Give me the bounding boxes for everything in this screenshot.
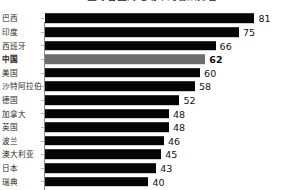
category-label: 西班牙 — [2, 41, 43, 50]
bar-row: 西班牙66 — [0, 39, 290, 53]
bar-row: 日本43 — [0, 161, 290, 175]
bar — [45, 163, 156, 173]
value-label: 62 — [205, 54, 222, 65]
chart-title: 全球各国对电动车的看法排名 — [52, 0, 252, 3]
category-label: 中国 — [2, 55, 43, 64]
axis-tick — [41, 154, 44, 155]
value-label: 58 — [195, 81, 211, 92]
category-label: 瑞典 — [2, 177, 43, 186]
bar — [45, 122, 169, 132]
value-label: 40 — [148, 176, 164, 187]
bar-row: 澳大利亚45 — [0, 148, 290, 162]
axis-tick — [41, 45, 44, 46]
axis-tick — [41, 18, 44, 19]
bar — [45, 41, 216, 51]
category-label: 德国 — [2, 95, 43, 104]
bar-row: 巴西81 — [0, 12, 290, 26]
category-label: 加拿大 — [2, 109, 43, 118]
bar-row: 美国60 — [0, 66, 290, 80]
category-label: 波兰 — [2, 136, 43, 145]
value-label: 46 — [164, 135, 180, 146]
category-label: 美国 — [2, 68, 43, 77]
axis-tick — [41, 32, 44, 33]
value-label: 60 — [200, 67, 216, 78]
bar — [45, 68, 200, 78]
bar-row: 英国48 — [0, 120, 290, 134]
bar — [45, 82, 195, 92]
bar-row: 中国62 — [0, 52, 290, 66]
bar — [45, 27, 239, 37]
axis-tick — [41, 73, 44, 74]
value-label: 43 — [156, 162, 172, 173]
bar-row: 瑞典40 — [0, 175, 290, 189]
value-label: 45 — [161, 149, 177, 160]
axis-tick — [41, 100, 44, 101]
value-label: 75 — [239, 26, 255, 37]
category-label: 日本 — [2, 163, 43, 172]
value-label: 52 — [179, 94, 195, 105]
bar — [45, 150, 161, 160]
axis-tick — [41, 113, 44, 114]
bar — [45, 14, 254, 24]
bar — [45, 177, 148, 187]
bar — [45, 136, 164, 146]
axis-tick — [41, 168, 44, 169]
bar — [45, 95, 179, 105]
bar-chart: 全球各国对电动车的看法排名 巴西81印度75西班牙66中国62美国60沙特阿拉伯… — [0, 0, 290, 190]
bar-row: 德国52 — [0, 93, 290, 107]
value-label: 48 — [169, 122, 185, 133]
bar-row: 波兰46 — [0, 134, 290, 148]
category-label: 沙特阿拉伯 — [2, 82, 43, 91]
value-label: 48 — [169, 108, 185, 119]
category-label: 英国 — [2, 123, 43, 132]
axis-tick — [41, 127, 44, 128]
category-label: 澳大利亚 — [2, 150, 43, 159]
axis-tick — [41, 141, 44, 142]
value-label: 81 — [254, 13, 270, 24]
bar-highlight — [45, 54, 205, 64]
axis-tick — [41, 181, 44, 182]
bar — [45, 109, 169, 119]
bar-row: 沙特阿拉伯58 — [0, 80, 290, 94]
axis-tick — [41, 59, 44, 60]
plot-area: 巴西81印度75西班牙66中国62美国60沙特阿拉伯58德国52加拿大48英国4… — [0, 11, 290, 190]
value-label: 66 — [216, 40, 232, 51]
bar-row: 加拿大48 — [0, 107, 290, 121]
category-label: 印度 — [2, 27, 43, 36]
category-label: 巴西 — [2, 14, 43, 23]
bar-row: 印度75 — [0, 25, 290, 39]
axis-tick — [41, 86, 44, 87]
